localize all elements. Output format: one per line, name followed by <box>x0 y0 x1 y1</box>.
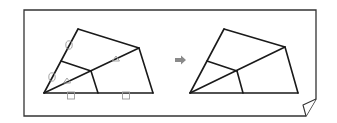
right-figure <box>190 29 298 93</box>
arrow-shape <box>175 56 186 65</box>
diagram-canvas <box>0 0 337 123</box>
edge-cd <box>139 48 153 93</box>
edge-bc <box>78 29 139 48</box>
folded-corner <box>303 99 316 116</box>
left-figure <box>44 29 153 93</box>
segment-fg <box>237 71 243 93</box>
diagram-svg <box>0 0 337 123</box>
edge-bc <box>224 29 285 47</box>
segment-ef <box>61 61 91 71</box>
diagonal-ac <box>190 47 285 93</box>
segment-ef <box>207 61 237 71</box>
segment-fg <box>91 71 98 93</box>
right-arrow-icon <box>175 56 186 65</box>
edge-cd <box>285 47 298 93</box>
